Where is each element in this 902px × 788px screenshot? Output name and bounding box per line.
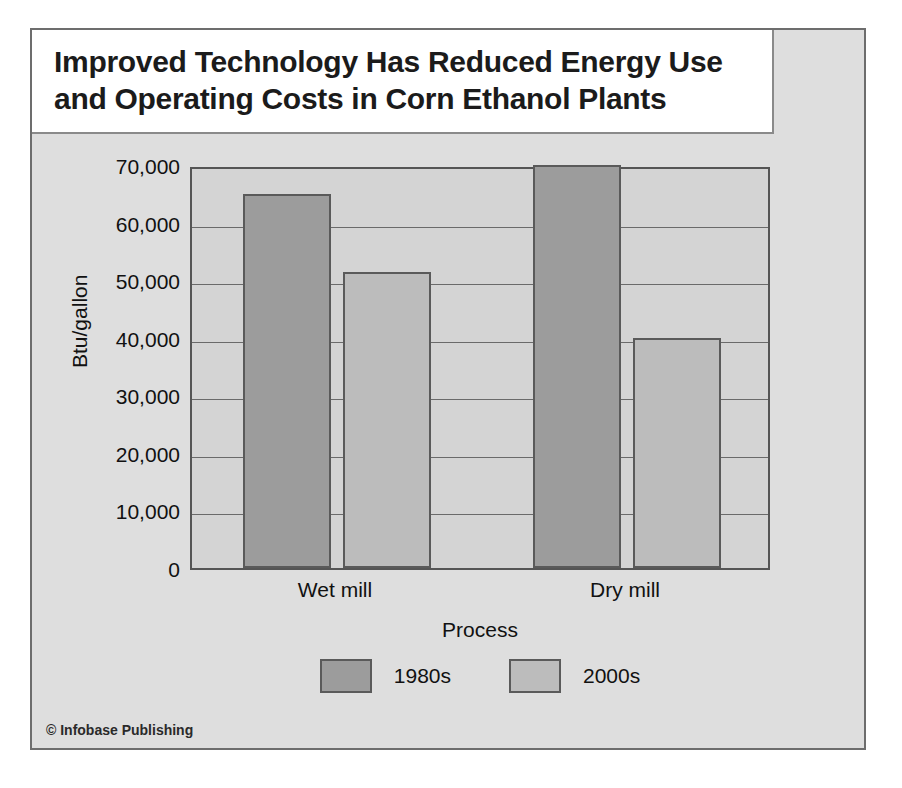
bar-2000s-dry-mill	[633, 338, 721, 568]
y-axis-tick-label: 30,000	[20, 385, 180, 409]
page-title: Improved Technology Has Reduced Energy U…	[54, 44, 754, 117]
legend-entry-2000s: 2000s	[509, 659, 640, 693]
y-axis-tick-label: 0	[20, 558, 180, 582]
copyright-credit: © Infobase Publishing	[46, 722, 193, 738]
legend-label-1980s: 1980s	[394, 664, 451, 688]
bar-2000s-wet-mill	[343, 272, 431, 568]
x-axis-category-label: Wet mill	[298, 578, 372, 602]
y-axis-tick-label: 40,000	[20, 328, 180, 352]
chart-figure: Improved Technology Has Reduced Energy U…	[30, 28, 866, 750]
x-axis-category-label: Dry mill	[590, 578, 660, 602]
bar-1980s-dry-mill	[533, 165, 621, 568]
x-axis-title: Process	[190, 618, 770, 642]
legend-entry-1980s: 1980s	[320, 659, 451, 693]
chart-title-box: Improved Technology Has Reduced Energy U…	[32, 30, 774, 134]
y-axis-tick-label: 70,000	[20, 155, 180, 179]
legend-label-2000s: 2000s	[583, 664, 640, 688]
bar-1980s-wet-mill	[243, 194, 331, 568]
legend-swatch-1980s	[320, 659, 372, 693]
plot-wrapper: Btu/gallon 010,00020,00030,00040,00050,0…	[32, 134, 864, 748]
y-axis-tick-label: 60,000	[20, 213, 180, 237]
y-axis-tick-label: 10,000	[20, 500, 180, 524]
chart-legend: 1980s2000s	[190, 659, 770, 693]
legend-swatch-2000s	[509, 659, 561, 693]
plot-area	[190, 167, 770, 570]
y-axis-tick-label: 50,000	[20, 270, 180, 294]
y-axis-tick-label: 20,000	[20, 443, 180, 467]
